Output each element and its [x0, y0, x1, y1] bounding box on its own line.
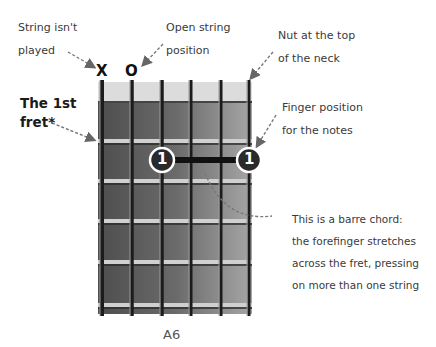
- label-barre-chord: This is a barre chord: the forefinger st…: [292, 208, 419, 296]
- finger-number-right: 1: [244, 152, 254, 167]
- finger-number-left: 1: [157, 152, 167, 167]
- label-open-string: Open string position: [166, 19, 230, 59]
- muted-string-marker: X: [96, 64, 108, 79]
- label-first-fret: The 1st fret*: [20, 94, 77, 132]
- chord-name: A6: [163, 327, 180, 342]
- label-nut: Nut at the top of the neck: [278, 27, 355, 67]
- label-finger-position: Finger position for the notes: [282, 99, 363, 139]
- open-string-marker: O: [125, 64, 138, 79]
- label-string-not-played: String isn't played: [18, 19, 77, 59]
- nut: [98, 82, 252, 102]
- fretboard-wood: [98, 102, 252, 314]
